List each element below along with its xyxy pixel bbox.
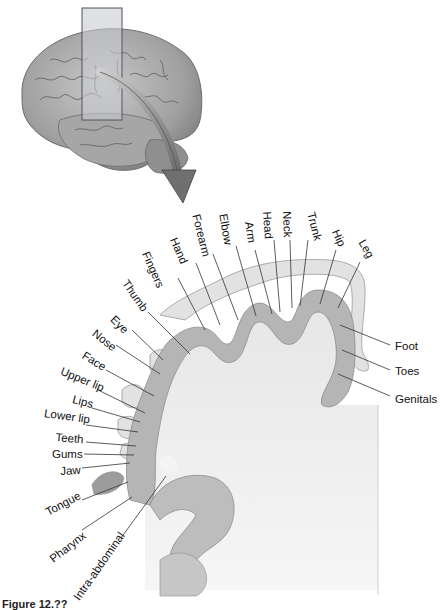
arrow-head-icon <box>162 170 196 203</box>
label-toes: Toes <box>395 366 419 378</box>
label-teeth: Teeth <box>55 432 84 446</box>
label-foot: Foot <box>395 341 418 353</box>
label-gums: Gums <box>52 449 83 461</box>
label-neck: Neck <box>281 211 293 238</box>
label-head: Head <box>261 211 274 239</box>
section-plane <box>82 8 122 120</box>
cortex-section <box>126 290 378 596</box>
brain-illustration <box>22 8 202 203</box>
label-jaw: Jaw <box>60 465 81 478</box>
figure-caption: Figure 12.?? <box>2 598 67 610</box>
label-arm: Arm <box>243 221 257 243</box>
label-genitals: Genitals <box>395 394 437 406</box>
